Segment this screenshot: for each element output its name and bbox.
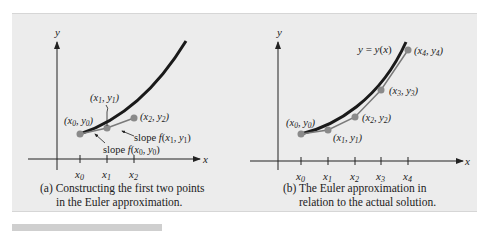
- caption-a: (a) Constructing the first two points in…: [40, 181, 205, 209]
- svg-text:x1: x1: [101, 168, 111, 182]
- caption-b-line2: relation to the actual solution.: [283, 195, 436, 209]
- svg-text:(x3, y3): (x3, y3): [389, 85, 419, 98]
- svg-text:y = y(x): y = y(x): [357, 43, 392, 56]
- panel-b-diagram: y x x0 x1 x2 x3 x4 y = y(x) (x4, y4) (x3…: [250, 26, 470, 184]
- x-axis-label-b: x: [464, 155, 470, 167]
- caption-b-line1: (b) The Euler approximation in: [283, 182, 427, 194]
- svg-text:(x1, y1): (x1, y1): [333, 132, 363, 145]
- svg-text:x2: x2: [128, 168, 138, 182]
- svg-text:(x0, y0): (x0, y0): [286, 117, 316, 130]
- svg-text:(x2, y2): (x2, y2): [362, 112, 392, 125]
- svg-text:x0: x0: [74, 168, 84, 182]
- x-axis-label-a: x: [202, 153, 208, 165]
- y-axis-label-a: y: [54, 26, 60, 38]
- svg-text:(x1, y1): (x1, y1): [90, 92, 120, 105]
- figure-caption-cropped: [12, 224, 162, 231]
- svg-text:(x2, y2): (x2, y2): [140, 111, 170, 124]
- caption-a-line1: (a) Constructing the first two points: [40, 182, 205, 194]
- panel-a-diagram: y x x0 x1 x2 (x1, y1) (x2, y2) (x0, y0) …: [28, 26, 208, 182]
- caption-a-line2: in the Euler approximation.: [40, 195, 205, 209]
- svg-text:(x0, y0): (x0, y0): [64, 115, 94, 128]
- caption-b: (b) The Euler approximation in relation …: [283, 181, 436, 209]
- y-axis-label-b: y: [276, 26, 282, 38]
- svg-text:(x4, y4): (x4, y4): [414, 45, 444, 58]
- svg-text:slope f(x0, y0): slope f(x0, y0): [103, 144, 160, 157]
